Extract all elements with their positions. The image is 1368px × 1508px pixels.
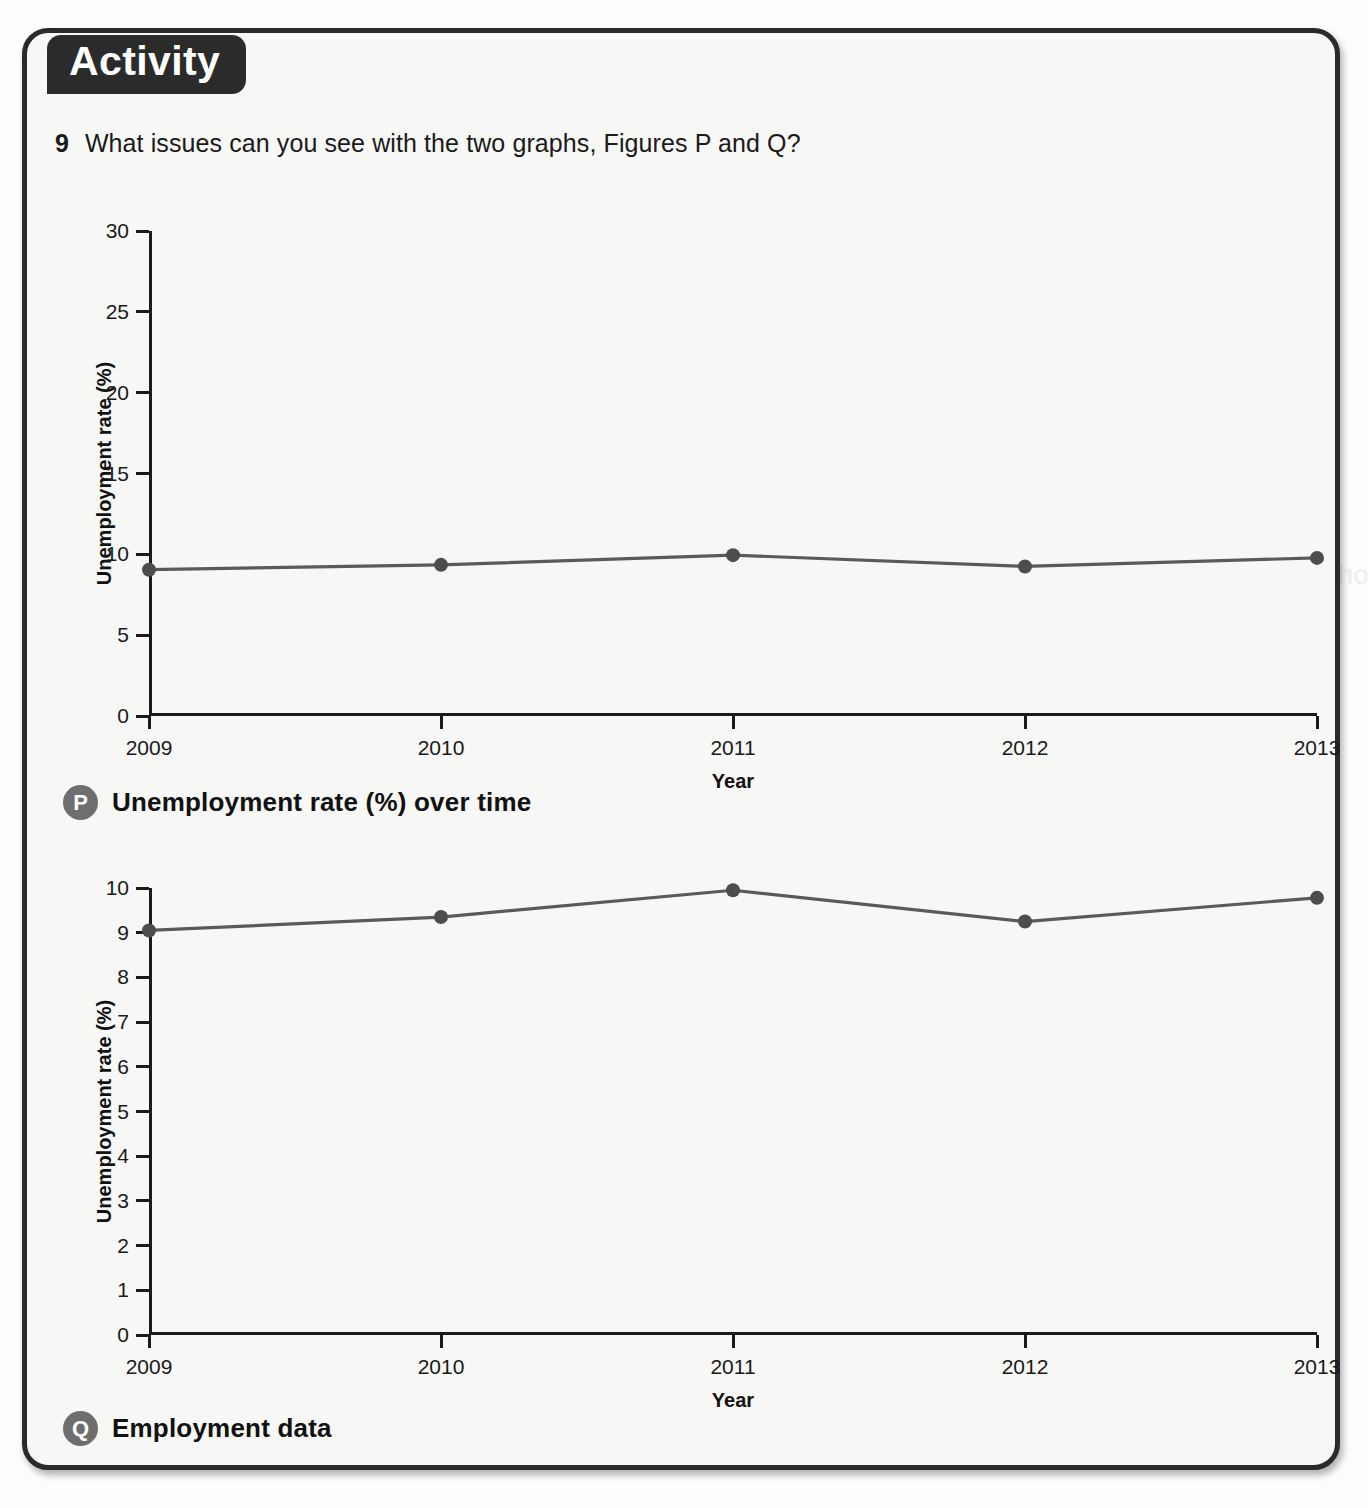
- chart-q-x-tick-label: 2011: [710, 1355, 755, 1379]
- chart-p-data-point: [726, 548, 740, 562]
- chart-p-data-point: [1018, 559, 1032, 573]
- chart-q-x-tick-label: 2013: [1294, 1355, 1341, 1379]
- chart-q-y-tick: [136, 976, 149, 979]
- chart-q-y-tick-label: 6: [117, 1055, 129, 1079]
- chart-q-y-tick: [136, 1244, 149, 1247]
- chart-q-x-tick: [1316, 1335, 1319, 1348]
- chart-p-series: [149, 231, 1317, 716]
- chart-p-y-tick: [136, 634, 149, 637]
- chart-p-x-tick-label: 2010: [418, 736, 465, 760]
- chart-p-x-tick-label: 2009: [126, 736, 173, 760]
- chart-q-y-tick-label: 4: [117, 1144, 129, 1168]
- chart-p-y-tick-label: 10: [106, 542, 129, 566]
- question-number: 9: [55, 129, 69, 158]
- chart-q-x-tick: [440, 1335, 443, 1348]
- chart-p-y-tick: [136, 230, 149, 233]
- chart-q-y-axis-title: Unemployment rate (%): [93, 888, 116, 1335]
- chart-p-data-point: [142, 563, 156, 577]
- chart-q-y-tick: [136, 1199, 149, 1202]
- chart-q-y-tick: [136, 1110, 149, 1113]
- chart-q-x-tick: [732, 1335, 735, 1348]
- chart-p-y-tick-label: 30: [106, 219, 129, 243]
- question-text: What issues can you see with the two gra…: [85, 129, 801, 158]
- chart-p-y-tick: [136, 310, 149, 313]
- chart-p-y-tick-label: 25: [106, 300, 129, 324]
- chart-p-data-point: [434, 558, 448, 572]
- chart-p-x-tick: [1024, 716, 1027, 729]
- chart-q-y-tick-label: 0: [117, 1323, 129, 1347]
- figure-q-badge: Q: [63, 1411, 98, 1446]
- chart-q-y-tick-label: 1: [117, 1278, 129, 1302]
- chart-q-data-point: [1018, 915, 1032, 929]
- chart-p-y-tick-label: 0: [117, 704, 129, 728]
- chart-q-series: [149, 888, 1317, 1335]
- chart-p-x-axis-title: Year: [712, 770, 754, 793]
- chart-q-y-tick: [136, 887, 149, 890]
- chart-q-y-tick-label: 8: [117, 965, 129, 989]
- chart-q-plot-area: 01234567891020092010201120122013: [149, 888, 1317, 1335]
- chart-p-y-tick: [136, 553, 149, 556]
- chart-p-x-tick: [440, 716, 443, 729]
- chart-figure-p: Unemployment rate (%) 051015202530200920…: [27, 183, 1335, 783]
- chart-p-y-tick-label: 5: [117, 623, 129, 647]
- chart-q-x-tick: [148, 1335, 151, 1348]
- chart-q-y-tick-label: 9: [117, 921, 129, 945]
- chart-q-x-tick: [1024, 1335, 1027, 1348]
- chart-q-data-point: [434, 910, 448, 924]
- figure-q-caption-text: Employment data: [112, 1413, 332, 1444]
- activity-card: Activity 9 What issues can you see with …: [22, 28, 1340, 1470]
- chart-p-y-tick: [136, 472, 149, 475]
- chart-figure-q: Unemployment rate (%) 012345678910200920…: [27, 813, 1335, 1398]
- question-row: 9 What issues can you see with the two g…: [55, 129, 801, 158]
- chart-q-x-tick-label: 2009: [126, 1355, 173, 1379]
- chart-q-x-tick-label: 2010: [418, 1355, 465, 1379]
- chart-q-y-tick: [136, 1289, 149, 1292]
- chart-p-y-tick-label: 15: [106, 462, 129, 486]
- chart-q-data-point: [142, 923, 156, 937]
- chart-p-x-tick: [732, 716, 735, 729]
- figure-q-caption: Q Employment data: [63, 1411, 332, 1446]
- chart-p-y-tick-label: 20: [106, 381, 129, 405]
- chart-q-y-tick-label: 10: [106, 876, 129, 900]
- chart-q-y-tick: [136, 1155, 149, 1158]
- chart-p-y-tick: [136, 391, 149, 394]
- chart-q-data-point: [726, 883, 740, 897]
- chart-q-y-tick-label: 7: [117, 1010, 129, 1034]
- chart-q-y-tick: [136, 1021, 149, 1024]
- chart-q-data-point: [1310, 891, 1324, 905]
- chart-p-x-tick-label: 2012: [1002, 736, 1049, 760]
- chart-q-x-tick-label: 2012: [1002, 1355, 1049, 1379]
- chart-p-x-tick: [148, 716, 151, 729]
- page: Further investigations Investigate furth…: [0, 0, 1368, 1508]
- chart-q-y-tick: [136, 1065, 149, 1068]
- activity-tab-label: Activity: [47, 35, 246, 94]
- chart-p-x-tick-label: 2013: [1294, 736, 1341, 760]
- chart-p-x-tick-label: 2011: [710, 736, 755, 760]
- chart-p-data-point: [1310, 551, 1324, 565]
- chart-q-y-tick-label: 2: [117, 1234, 129, 1258]
- chart-p-plot-area: 05101520253020092010201120122013: [149, 231, 1317, 716]
- chart-p-x-tick: [1316, 716, 1319, 729]
- chart-q-y-tick-label: 3: [117, 1189, 129, 1213]
- chart-q-x-axis-title: Year: [712, 1389, 754, 1412]
- chart-q-y-tick-label: 5: [117, 1100, 129, 1124]
